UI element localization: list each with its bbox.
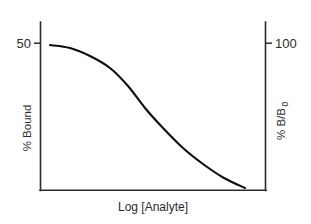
chart-figure: 50 100 % Bound % B/B 0 Log [Analyte] xyxy=(0,0,311,224)
right-axis-title-subscript: 0 xyxy=(280,101,290,106)
right-axis-title-main: % B/B xyxy=(275,108,287,140)
left-axis-title: % Bound xyxy=(21,105,33,152)
right-axis-tick-label: 100 xyxy=(275,36,297,51)
chart-canvas: 50 100 % Bound % B/B 0 Log [Analyte] xyxy=(0,0,311,224)
x-axis-title: Log [Analyte] xyxy=(118,200,188,214)
left-axis-tick-label: 50 xyxy=(17,36,31,51)
